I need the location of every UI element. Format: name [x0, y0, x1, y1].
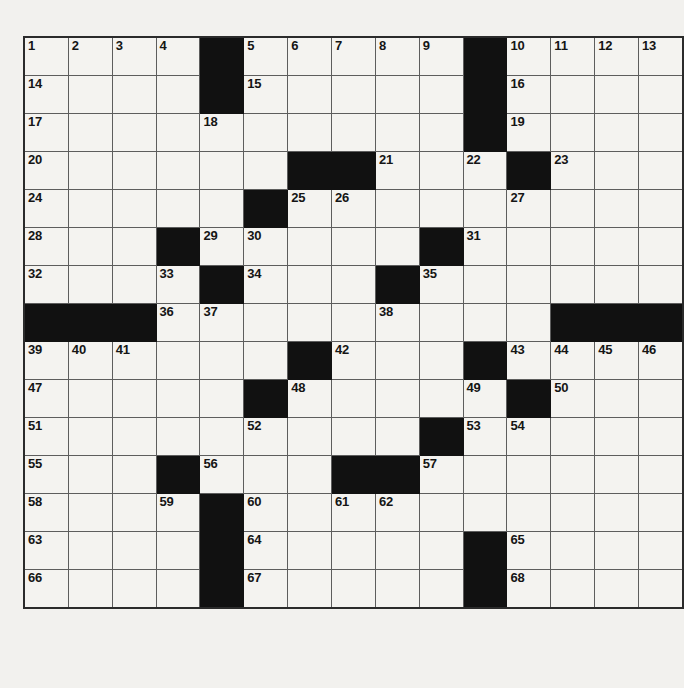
open-square[interactable]: 30	[244, 228, 288, 266]
open-square[interactable]	[244, 342, 288, 380]
open-square[interactable]: 48	[288, 380, 332, 418]
open-square[interactable]: 47	[24, 380, 68, 418]
open-square[interactable]	[68, 114, 112, 152]
open-square[interactable]	[551, 190, 595, 228]
open-square[interactable]: 50	[551, 380, 595, 418]
open-square[interactable]: 17	[24, 114, 68, 152]
open-square[interactable]	[419, 76, 463, 114]
open-square[interactable]: 44	[551, 342, 595, 380]
open-square[interactable]	[639, 76, 683, 114]
open-square[interactable]	[551, 456, 595, 494]
open-square[interactable]: 67	[244, 570, 288, 609]
open-square[interactable]	[332, 570, 376, 609]
open-square[interactable]	[68, 456, 112, 494]
open-square[interactable]	[332, 532, 376, 570]
open-square[interactable]: 38	[375, 304, 419, 342]
open-square[interactable]	[112, 570, 156, 609]
open-square[interactable]: 57	[419, 456, 463, 494]
open-square[interactable]	[112, 114, 156, 152]
open-square[interactable]	[244, 304, 288, 342]
open-square[interactable]: 65	[507, 532, 551, 570]
open-square[interactable]	[463, 266, 507, 304]
open-square[interactable]	[244, 152, 288, 190]
open-square[interactable]: 60	[244, 494, 288, 532]
open-square[interactable]: 5	[244, 37, 288, 76]
open-square[interactable]: 23	[551, 152, 595, 190]
open-square[interactable]	[595, 380, 639, 418]
open-square[interactable]	[419, 190, 463, 228]
open-square[interactable]	[375, 76, 419, 114]
open-square[interactable]	[419, 304, 463, 342]
open-square[interactable]	[68, 380, 112, 418]
open-square[interactable]	[288, 266, 332, 304]
open-square[interactable]: 6	[288, 37, 332, 76]
open-square[interactable]	[200, 152, 244, 190]
open-square[interactable]	[595, 190, 639, 228]
open-square[interactable]: 52	[244, 418, 288, 456]
open-square[interactable]: 61	[332, 494, 376, 532]
open-square[interactable]	[288, 228, 332, 266]
open-square[interactable]: 36	[156, 304, 200, 342]
open-square[interactable]	[68, 190, 112, 228]
open-square[interactable]: 46	[639, 342, 683, 380]
open-square[interactable]	[68, 570, 112, 609]
open-square[interactable]	[112, 76, 156, 114]
open-square[interactable]	[507, 304, 551, 342]
open-square[interactable]	[332, 76, 376, 114]
open-square[interactable]: 4	[156, 37, 200, 76]
open-square[interactable]	[595, 570, 639, 609]
open-square[interactable]	[112, 494, 156, 532]
open-square[interactable]	[551, 418, 595, 456]
open-square[interactable]	[156, 380, 200, 418]
open-square[interactable]	[551, 114, 595, 152]
open-square[interactable]	[595, 114, 639, 152]
open-square[interactable]	[595, 76, 639, 114]
open-square[interactable]	[332, 266, 376, 304]
open-square[interactable]	[419, 342, 463, 380]
open-square[interactable]	[68, 152, 112, 190]
open-square[interactable]	[463, 456, 507, 494]
open-square[interactable]: 64	[244, 532, 288, 570]
open-square[interactable]	[288, 114, 332, 152]
open-square[interactable]	[507, 228, 551, 266]
open-square[interactable]: 33	[156, 266, 200, 304]
open-square[interactable]	[595, 228, 639, 266]
open-square[interactable]	[375, 190, 419, 228]
open-square[interactable]	[332, 114, 376, 152]
open-square[interactable]: 8	[375, 37, 419, 76]
open-square[interactable]	[551, 570, 595, 609]
open-square[interactable]	[244, 114, 288, 152]
open-square[interactable]: 45	[595, 342, 639, 380]
open-square[interactable]: 2	[68, 37, 112, 76]
open-square[interactable]	[463, 304, 507, 342]
open-square[interactable]	[639, 152, 683, 190]
open-square[interactable]	[595, 456, 639, 494]
open-square[interactable]: 7	[332, 37, 376, 76]
open-square[interactable]: 9	[419, 37, 463, 76]
open-square[interactable]	[288, 494, 332, 532]
open-square[interactable]	[332, 380, 376, 418]
open-square[interactable]	[156, 570, 200, 609]
open-square[interactable]: 3	[112, 37, 156, 76]
open-square[interactable]: 12	[595, 37, 639, 76]
open-square[interactable]	[419, 494, 463, 532]
open-square[interactable]	[156, 114, 200, 152]
open-square[interactable]	[200, 380, 244, 418]
open-square[interactable]: 28	[24, 228, 68, 266]
open-square[interactable]	[156, 418, 200, 456]
open-square[interactable]: 10	[507, 37, 551, 76]
open-square[interactable]	[288, 76, 332, 114]
open-square[interactable]	[375, 532, 419, 570]
open-square[interactable]: 58	[24, 494, 68, 532]
open-square[interactable]	[551, 266, 595, 304]
open-square[interactable]	[200, 418, 244, 456]
open-square[interactable]	[375, 418, 419, 456]
open-square[interactable]: 31	[463, 228, 507, 266]
open-square[interactable]	[288, 570, 332, 609]
open-square[interactable]: 15	[244, 76, 288, 114]
open-square[interactable]: 66	[24, 570, 68, 609]
open-square[interactable]	[112, 532, 156, 570]
open-square[interactable]	[551, 532, 595, 570]
open-square[interactable]	[507, 266, 551, 304]
open-square[interactable]: 22	[463, 152, 507, 190]
